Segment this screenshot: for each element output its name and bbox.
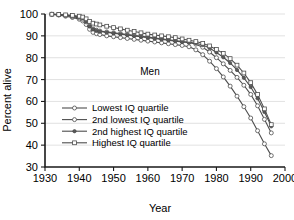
series-3-marker-30 bbox=[235, 63, 239, 67]
series-0-marker-32 bbox=[249, 116, 253, 120]
men-annotation: Men bbox=[140, 66, 159, 77]
series-2-marker-18 bbox=[153, 37, 156, 40]
y-tick-label-80: 80 bbox=[26, 52, 38, 64]
series-2-marker-29 bbox=[228, 61, 231, 64]
x-tick-label-1940: 1940 bbox=[67, 172, 91, 184]
series-0-marker-18 bbox=[153, 40, 157, 44]
series-0-marker-22 bbox=[180, 43, 184, 47]
series-3-marker-35 bbox=[269, 123, 273, 127]
series-0-marker-15 bbox=[132, 37, 136, 41]
series-2-marker-13 bbox=[119, 32, 122, 35]
series-2-marker-19 bbox=[160, 38, 163, 41]
series-2-marker-17 bbox=[146, 36, 149, 39]
series-0-marker-16 bbox=[139, 38, 143, 42]
series-3-marker-13 bbox=[119, 27, 123, 31]
legend-marker-3 bbox=[73, 141, 77, 145]
y-tick-label-100: 100 bbox=[20, 8, 38, 20]
series-1-marker-32 bbox=[249, 92, 253, 96]
series-0-marker-33 bbox=[256, 129, 260, 133]
series-3-marker-14 bbox=[125, 28, 129, 32]
series-0-marker-28 bbox=[221, 75, 225, 79]
series-3-marker-16 bbox=[139, 31, 143, 35]
series-0-marker-23 bbox=[187, 45, 191, 49]
series-0-marker-11 bbox=[105, 34, 109, 38]
series-0-marker-25 bbox=[201, 53, 205, 57]
series-3-marker-18 bbox=[153, 33, 157, 37]
series-3-marker-22 bbox=[180, 37, 184, 41]
series-3-marker-33 bbox=[256, 93, 260, 97]
series-0-marker-24 bbox=[194, 48, 198, 52]
series-3-marker-25 bbox=[201, 41, 205, 45]
series-2-marker-32 bbox=[249, 85, 252, 88]
series-1-marker-34 bbox=[262, 117, 266, 121]
series-3-marker-2 bbox=[64, 13, 68, 17]
series-0-marker-20 bbox=[166, 42, 170, 46]
series-3-marker-20 bbox=[167, 35, 171, 39]
series-0-marker-19 bbox=[160, 41, 164, 45]
series-2-marker-15 bbox=[132, 34, 135, 37]
legend-label-3: Highest IQ quartile bbox=[92, 137, 171, 148]
survival-line-chart: 30405060708090100 1930194019501960197019… bbox=[0, 0, 294, 220]
series-2-marker-9 bbox=[95, 29, 98, 32]
series-3-marker-24 bbox=[194, 40, 198, 44]
series-0-marker-29 bbox=[228, 84, 232, 88]
series-0-marker-14 bbox=[125, 36, 129, 40]
series-0-marker-17 bbox=[146, 39, 150, 43]
series-0-marker-31 bbox=[242, 105, 246, 109]
legend-marker-1 bbox=[73, 118, 77, 122]
series-0-marker-26 bbox=[208, 59, 212, 63]
series-3-marker-23 bbox=[187, 38, 191, 42]
series-2-marker-14 bbox=[126, 33, 129, 36]
series-2-marker-10 bbox=[98, 30, 101, 33]
series-3-marker-29 bbox=[228, 57, 232, 61]
y-tick-label-60: 60 bbox=[26, 95, 38, 107]
series-3-marker-27 bbox=[215, 48, 219, 52]
x-tick-label-2000: 2000 bbox=[273, 172, 294, 184]
series-0-marker-34 bbox=[262, 142, 266, 146]
series-2-marker-21 bbox=[174, 39, 177, 42]
legend-label-2: 2nd highest IQ quartile bbox=[92, 126, 188, 137]
x-tick-label-1990: 1990 bbox=[238, 172, 262, 184]
series-1-marker-30 bbox=[235, 75, 239, 79]
series-2-marker-16 bbox=[139, 35, 142, 38]
series-2-marker-30 bbox=[235, 68, 238, 71]
x-tick-label-1930: 1930 bbox=[33, 172, 57, 184]
series-3-marker-32 bbox=[249, 81, 253, 85]
x-tick-label-1970: 1970 bbox=[170, 172, 194, 184]
series-1-marker-35 bbox=[269, 131, 273, 135]
series-2-marker-20 bbox=[167, 39, 170, 42]
series-3-marker-0 bbox=[50, 12, 54, 16]
x-axis-title: Year bbox=[149, 202, 172, 214]
series-3-marker-15 bbox=[132, 30, 136, 34]
series-2-marker-31 bbox=[242, 76, 245, 79]
series-2-marker-33 bbox=[256, 97, 259, 100]
chart-container: 30405060708090100 1930194019501960197019… bbox=[0, 0, 294, 220]
series-1-marker-26 bbox=[208, 50, 212, 54]
series-1-marker-33 bbox=[256, 104, 260, 108]
x-tick-label-1950: 1950 bbox=[101, 172, 125, 184]
series-2-marker-28 bbox=[222, 56, 225, 59]
series-3-marker-3 bbox=[71, 13, 75, 17]
legend-marker-2 bbox=[73, 130, 76, 133]
series-3-marker-10 bbox=[98, 23, 102, 27]
series-3-marker-19 bbox=[160, 34, 164, 38]
series-1-marker-31 bbox=[242, 83, 246, 87]
series-0-marker-27 bbox=[214, 67, 218, 71]
series-2-marker-12 bbox=[112, 32, 115, 35]
series-3-marker-11 bbox=[105, 24, 109, 28]
series-3-marker-17 bbox=[146, 32, 150, 36]
series-1-marker-28 bbox=[221, 62, 225, 66]
legend-label-0: Lowest IQ quartile bbox=[92, 102, 169, 113]
y-tick-label-90: 90 bbox=[26, 30, 38, 42]
series-3-marker-26 bbox=[208, 44, 212, 48]
series-3-marker-34 bbox=[263, 107, 267, 111]
y-tick-label-50: 50 bbox=[26, 117, 38, 129]
series-3-marker-31 bbox=[242, 71, 246, 75]
x-tick-label-1980: 1980 bbox=[204, 172, 228, 184]
series-3-marker-28 bbox=[221, 51, 225, 55]
series-1-marker-29 bbox=[228, 68, 232, 72]
series-0-marker-35 bbox=[269, 154, 273, 158]
series-0-marker-13 bbox=[118, 36, 122, 40]
x-tick-label-1960: 1960 bbox=[136, 172, 160, 184]
series-0-marker-30 bbox=[235, 94, 239, 98]
